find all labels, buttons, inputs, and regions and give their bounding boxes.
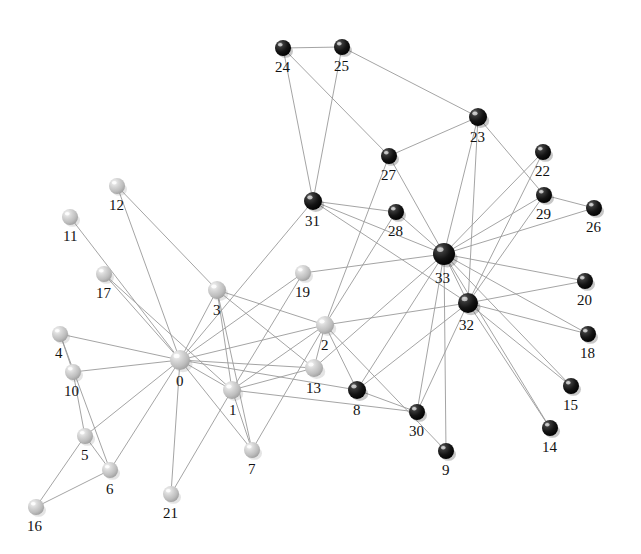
node-label-4: 4 bbox=[55, 346, 63, 361]
graph-node[interactable] bbox=[381, 148, 397, 164]
node-label-26: 26 bbox=[586, 220, 601, 235]
graph-node[interactable] bbox=[348, 381, 366, 399]
graph-node[interactable] bbox=[316, 316, 334, 334]
graph-edge bbox=[389, 117, 478, 156]
node-specular-highlight bbox=[437, 247, 444, 252]
graph-edge bbox=[232, 273, 303, 390]
graph-node[interactable] bbox=[52, 326, 68, 342]
node-specular-highlight bbox=[384, 151, 389, 155]
node-specular-highlight bbox=[580, 276, 585, 280]
node-specular-highlight bbox=[539, 190, 544, 194]
graph-node[interactable] bbox=[275, 40, 291, 56]
graph-node[interactable] bbox=[586, 200, 602, 216]
graph-edge bbox=[180, 290, 217, 360]
graph-edge bbox=[468, 195, 544, 303]
graph-node[interactable] bbox=[535, 144, 551, 160]
node-specular-highlight bbox=[174, 354, 180, 358]
graph-node[interactable] bbox=[62, 209, 78, 225]
graph-edge bbox=[313, 201, 444, 254]
graph-edges-layer bbox=[0, 0, 641, 554]
graph-edge bbox=[325, 156, 389, 325]
graph-node[interactable] bbox=[433, 243, 455, 265]
graph-edge bbox=[357, 254, 444, 390]
graph-edge bbox=[110, 360, 180, 470]
graph-edge bbox=[73, 360, 180, 372]
node-specular-highlight bbox=[472, 111, 477, 115]
node-specular-highlight bbox=[462, 297, 468, 301]
node-label-20: 20 bbox=[577, 293, 592, 308]
graph-node[interactable] bbox=[469, 108, 487, 126]
node-label-12: 12 bbox=[109, 198, 124, 213]
graph-node[interactable] bbox=[77, 428, 93, 444]
graph-node[interactable] bbox=[542, 420, 558, 436]
node-specular-highlight bbox=[211, 284, 216, 288]
graph-node[interactable] bbox=[536, 187, 552, 203]
node-specular-highlight bbox=[589, 203, 594, 207]
node-specular-highlight bbox=[31, 502, 36, 506]
node-specular-highlight bbox=[112, 181, 117, 185]
node-label-3: 3 bbox=[213, 303, 221, 318]
graph-edge bbox=[60, 334, 180, 360]
graph-node[interactable] bbox=[304, 192, 322, 210]
node-specular-highlight bbox=[80, 431, 85, 435]
graph-node[interactable] bbox=[208, 281, 226, 299]
node-label-6: 6 bbox=[106, 482, 114, 497]
graph-edge bbox=[283, 47, 342, 48]
node-label-29: 29 bbox=[536, 207, 551, 222]
node-label-31: 31 bbox=[305, 214, 320, 229]
graph-edge bbox=[478, 117, 544, 195]
node-label-18: 18 bbox=[580, 346, 595, 361]
graph-node[interactable] bbox=[580, 326, 596, 342]
graph-edge bbox=[36, 470, 110, 507]
graph-node[interactable] bbox=[170, 350, 190, 370]
node-label-28: 28 bbox=[388, 224, 403, 239]
node-label-1: 1 bbox=[229, 403, 237, 418]
graph-edge bbox=[180, 325, 325, 360]
graph-node[interactable] bbox=[334, 39, 350, 55]
graph-node[interactable] bbox=[295, 265, 311, 281]
graph-node[interactable] bbox=[388, 204, 404, 220]
graph-edge bbox=[468, 303, 588, 334]
graph-node[interactable] bbox=[409, 404, 425, 420]
graph-node[interactable] bbox=[65, 364, 81, 380]
node-specular-highlight bbox=[538, 147, 543, 151]
graph-node[interactable] bbox=[563, 378, 579, 394]
edges-group bbox=[36, 47, 594, 507]
graph-node[interactable] bbox=[109, 178, 125, 194]
node-label-21: 21 bbox=[163, 506, 178, 521]
node-label-30: 30 bbox=[409, 424, 424, 439]
graph-edge bbox=[232, 390, 417, 412]
node-specular-highlight bbox=[441, 446, 446, 450]
graph-node[interactable] bbox=[244, 442, 260, 458]
graph-node[interactable] bbox=[577, 273, 593, 289]
node-label-33: 33 bbox=[435, 271, 450, 286]
node-specular-highlight bbox=[99, 269, 104, 273]
node-label-25: 25 bbox=[334, 59, 349, 74]
graph-node[interactable] bbox=[28, 499, 44, 515]
graph-edge bbox=[303, 254, 444, 273]
node-specular-highlight bbox=[226, 384, 231, 388]
node-label-13: 13 bbox=[306, 381, 321, 396]
graph-node[interactable] bbox=[163, 486, 179, 502]
graph-node[interactable] bbox=[223, 381, 241, 399]
graph-node[interactable] bbox=[458, 293, 478, 313]
graph-node[interactable] bbox=[102, 462, 118, 478]
node-label-27: 27 bbox=[381, 168, 396, 183]
node-specular-highlight bbox=[307, 195, 312, 199]
node-specular-highlight bbox=[278, 43, 283, 47]
graph-edge bbox=[444, 195, 544, 254]
graph-node[interactable] bbox=[96, 266, 112, 282]
network-graph-canvas: 0123456789101112131415161718192021222324… bbox=[0, 0, 641, 554]
node-label-5: 5 bbox=[81, 448, 89, 463]
graph-node[interactable] bbox=[438, 443, 454, 459]
graph-node[interactable] bbox=[305, 359, 323, 377]
node-specular-highlight bbox=[68, 367, 73, 371]
node-specular-highlight bbox=[105, 465, 110, 469]
node-specular-highlight bbox=[65, 212, 70, 216]
node-label-14: 14 bbox=[542, 440, 557, 455]
graph-edge bbox=[180, 360, 252, 450]
graph-edge bbox=[70, 217, 180, 360]
graph-edge bbox=[85, 360, 180, 436]
node-label-2: 2 bbox=[321, 338, 329, 353]
node-label-7: 7 bbox=[248, 462, 256, 477]
